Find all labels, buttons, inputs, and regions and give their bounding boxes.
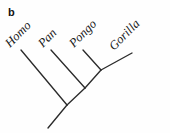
branch-line-group [21, 50, 132, 128]
branch-spine-root-to-pan [67, 88, 85, 105]
branch-spine-pan-to-pongo [85, 70, 101, 88]
branch-pongo [83, 50, 101, 70]
branch-gorilla [101, 53, 132, 70]
cladogram-figure: b Homo Pan Pongo Gorilla [0, 0, 170, 133]
branch-pan [51, 50, 85, 88]
branch-root-stem [48, 105, 67, 128]
branch-homo [21, 50, 67, 105]
